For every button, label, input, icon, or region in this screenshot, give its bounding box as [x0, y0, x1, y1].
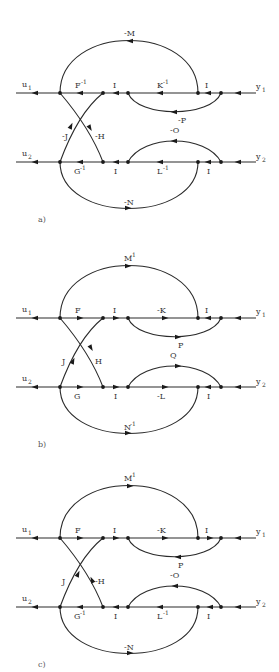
node-dot: [58, 605, 62, 609]
output-y2-label-subscript: 2: [262, 381, 266, 388]
gain-label-m: -M: [124, 29, 135, 38]
node-dot: [126, 605, 130, 609]
node-dot: [58, 536, 62, 540]
gain-label-i-top: I: [113, 306, 116, 315]
gain-label-j: J: [61, 577, 65, 586]
gain-label-h: -H: [95, 577, 105, 586]
arrow-icon: [113, 160, 120, 165]
arrow-icon: [68, 122, 75, 130]
p-branch-arc: [128, 318, 221, 337]
gain-label-o: Q: [170, 351, 177, 360]
panel-b: u1u2y1y2M-1FI-KIPJHGI-LIQN-1b): [16, 251, 266, 449]
gain-label-l-superscript: -1: [163, 609, 169, 616]
gain-label-f-superscript: -1: [81, 78, 87, 85]
arrow-icon: [113, 316, 120, 321]
o-branch-arc: [128, 366, 221, 387]
input-u1-label: u: [22, 80, 27, 89]
gain-label-j: -J: [62, 132, 68, 141]
top-feedback-arc: [60, 486, 198, 539]
top-feedback-arc: [60, 41, 198, 94]
gain-label-i-top-right: I: [205, 81, 208, 90]
o-branch-arc: [128, 141, 221, 162]
node-dot: [58, 160, 62, 164]
node-dot: [101, 91, 105, 95]
output-y1-label: y: [255, 527, 261, 536]
node-dot: [126, 316, 130, 320]
gain-label-m-superscript: -1: [130, 471, 136, 478]
gain-label-n: -N: [124, 198, 134, 207]
input-u2-label-subscript: 2: [28, 598, 32, 605]
top-feedback-arc: [60, 266, 198, 319]
gain-label-p: P: [178, 341, 184, 350]
input-u1-label-subscript: 1: [28, 84, 32, 91]
node-dot: [126, 160, 130, 164]
output-y1-label: y: [255, 307, 261, 316]
gain-label-i-bottom: I: [114, 167, 117, 176]
output-y1-label: y: [255, 82, 261, 91]
node-dot: [58, 385, 62, 389]
output-y2-label: y: [255, 597, 261, 606]
input-u2-label: u: [22, 594, 27, 603]
arrow-icon: [162, 536, 169, 541]
arrow-icon: [157, 91, 164, 96]
gain-label-i-top-right: I: [205, 526, 208, 535]
gain-label-k: -K: [157, 306, 167, 315]
j-cross-edge: [60, 318, 103, 387]
node-dot: [196, 91, 200, 95]
j-cross-edge: [60, 538, 103, 607]
arrow-icon: [235, 91, 242, 96]
node-dot: [196, 160, 200, 164]
gain-label-i-top: I: [113, 81, 116, 90]
node-dot: [196, 316, 200, 320]
arrow-icon: [205, 316, 212, 321]
gain-label-h: -H: [95, 132, 105, 141]
input-u2-label-subscript: 2: [28, 153, 32, 160]
gain-label-g-superscript: -1: [80, 164, 86, 171]
node-dot: [101, 536, 105, 540]
arrow-icon: [175, 364, 182, 369]
node-dot: [196, 605, 200, 609]
input-u1-label: u: [22, 305, 27, 314]
node-dot: [126, 536, 130, 540]
arrow-icon: [32, 316, 39, 321]
gain-label-p: -P: [178, 116, 187, 125]
arrow-icon: [162, 316, 169, 321]
arrow-icon: [127, 39, 134, 44]
arrow-icon: [88, 344, 95, 352]
input-u1-label-subscript: 1: [28, 309, 32, 316]
gain-label-j: J: [61, 357, 65, 366]
output-y1-label-subscript: 1: [262, 86, 266, 93]
arrow-icon: [125, 264, 132, 269]
arrow-icon: [205, 91, 212, 96]
p-branch-arc: [128, 93, 221, 112]
p-branch-arc: [128, 538, 221, 557]
input-u1-label-subscript: 1: [28, 529, 32, 536]
arrow-icon: [113, 91, 120, 96]
gain-label-i-bottom-right: I: [207, 612, 210, 621]
arrow-icon: [113, 385, 120, 390]
arrow-icon: [235, 536, 242, 541]
output-y1-label-subscript: 1: [262, 531, 266, 538]
arrow-icon: [172, 584, 179, 589]
arrow-icon: [32, 385, 39, 390]
gain-label-m-superscript: -1: [130, 251, 136, 258]
input-u1-label: u: [22, 525, 27, 534]
node-dot: [101, 160, 105, 164]
arrow-icon: [235, 160, 242, 165]
gain-label-l: -L: [157, 392, 166, 401]
node-dot: [219, 605, 223, 609]
h-cross-edge: [60, 538, 103, 607]
arrow-icon: [207, 536, 214, 541]
arrow-icon: [127, 484, 134, 489]
o-branch-arc: [128, 586, 221, 607]
h-cross-edge: [60, 93, 103, 162]
gain-label-f: F: [75, 526, 81, 535]
output-y2-label: y: [255, 377, 261, 386]
arrow-icon: [113, 536, 120, 541]
gain-label-i-bottom: I: [114, 612, 117, 621]
arrow-icon: [162, 385, 169, 390]
j-cross-edge: [60, 93, 103, 162]
arrow-icon: [235, 605, 242, 610]
input-u2-label: u: [22, 149, 27, 158]
node-dot: [58, 91, 62, 95]
